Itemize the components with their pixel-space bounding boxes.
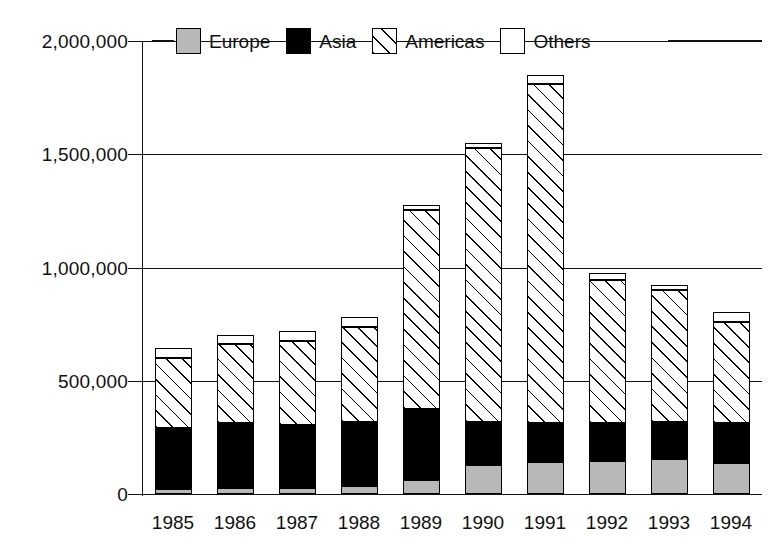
y-tick-label: 500,000: [58, 372, 128, 391]
bar-segment-asia[interactable]: [589, 423, 626, 461]
legend-label: Europe: [209, 32, 270, 51]
bar-segment-others[interactable]: [465, 143, 502, 148]
bar-1994[interactable]: [713, 41, 750, 494]
bar-segment-americas[interactable]: [279, 341, 316, 425]
y-tick-label: 0: [117, 485, 128, 504]
bar-segment-europe[interactable]: [403, 480, 440, 494]
bar-segment-europe[interactable]: [217, 488, 254, 494]
bar-segment-europe[interactable]: [713, 463, 750, 494]
legend-rule-left: [152, 40, 174, 41]
bar-segment-americas[interactable]: [589, 280, 626, 423]
bar-segment-europe[interactable]: [341, 486, 378, 494]
bar-segment-others[interactable]: [527, 75, 564, 84]
bar-segment-europe[interactable]: [155, 489, 192, 494]
x-tick-label: 1994: [691, 513, 771, 532]
legend-label: Others: [533, 32, 590, 51]
bar-segment-asia[interactable]: [279, 425, 316, 488]
y-axis-labels: 0500,0001,000,0001,500,0002,000,000: [0, 0, 128, 549]
bar-segment-asia[interactable]: [155, 428, 192, 489]
bar-segment-others[interactable]: [341, 317, 378, 327]
bar-1993[interactable]: [651, 41, 688, 494]
bar-segment-americas[interactable]: [341, 327, 378, 422]
plot-area: [142, 41, 762, 494]
bar-segment-americas[interactable]: [713, 322, 750, 423]
chart-legend: EuropeAsiaAmericasOthers: [176, 27, 606, 55]
bar-segment-others[interactable]: [155, 348, 192, 358]
bar-segment-europe[interactable]: [527, 462, 564, 494]
bar-segment-asia[interactable]: [713, 423, 750, 463]
bar-segment-americas[interactable]: [465, 148, 502, 422]
bar-segment-asia[interactable]: [651, 422, 688, 459]
bar-segment-others[interactable]: [403, 205, 440, 210]
bar-segment-asia[interactable]: [403, 409, 440, 480]
legend-swatch-diagonal-hatch-icon: [372, 28, 397, 54]
gridline: [142, 494, 762, 495]
bar-segment-europe[interactable]: [279, 488, 316, 494]
bar-segment-americas[interactable]: [651, 290, 688, 422]
bar-segment-europe[interactable]: [651, 459, 688, 494]
bar-1985[interactable]: [155, 41, 192, 494]
bar-segment-others[interactable]: [279, 331, 316, 341]
y-tick-label: 1,000,000: [42, 259, 128, 278]
bar-segment-americas[interactable]: [527, 84, 564, 423]
bar-segment-asia[interactable]: [341, 422, 378, 486]
stacked-bar-chart: 0500,0001,000,0001,500,0002,000,000 Euro…: [0, 0, 782, 549]
y-tick-mark: [128, 494, 142, 495]
y-tick-mark: [128, 381, 142, 382]
bar-segment-asia[interactable]: [465, 422, 502, 465]
bar-segment-europe[interactable]: [589, 461, 626, 494]
bar-1986[interactable]: [217, 41, 254, 494]
legend-label: Americas: [405, 32, 484, 51]
bar-segment-americas[interactable]: [403, 210, 440, 409]
bar-1989[interactable]: [403, 41, 440, 494]
bar-segment-americas[interactable]: [217, 344, 254, 423]
legend-label: Asia: [319, 32, 356, 51]
bar-segment-americas[interactable]: [155, 358, 192, 428]
bar-1992[interactable]: [589, 41, 626, 494]
y-tick-label: 2,000,000: [42, 32, 128, 51]
y-tick-mark: [128, 154, 142, 155]
bar-segment-others[interactable]: [651, 285, 688, 290]
legend-swatch-solid-white-icon: [500, 28, 525, 54]
legend-swatch-solid-gray-icon: [176, 28, 201, 54]
bar-1991[interactable]: [527, 41, 564, 494]
legend-item-asia[interactable]: Asia: [286, 28, 356, 54]
y-tick-mark: [128, 41, 142, 42]
legend-item-others[interactable]: Others: [500, 28, 590, 54]
bar-segment-others[interactable]: [713, 312, 750, 322]
bar-segment-asia[interactable]: [527, 423, 564, 462]
legend-item-americas[interactable]: Americas: [372, 28, 484, 54]
legend-item-europe[interactable]: Europe: [176, 28, 270, 54]
bar-segment-others[interactable]: [589, 273, 626, 280]
y-tick-mark: [128, 268, 142, 269]
bar-segment-europe[interactable]: [465, 465, 502, 494]
legend-swatch-solid-black-icon: [286, 28, 311, 54]
bar-1990[interactable]: [465, 41, 502, 494]
bar-1987[interactable]: [279, 41, 316, 494]
legend-rule-right: [668, 40, 762, 41]
y-tick-label: 1,500,000: [42, 145, 128, 164]
bar-segment-others[interactable]: [217, 335, 254, 344]
bar-1988[interactable]: [341, 41, 378, 494]
bar-segment-asia[interactable]: [217, 423, 254, 488]
